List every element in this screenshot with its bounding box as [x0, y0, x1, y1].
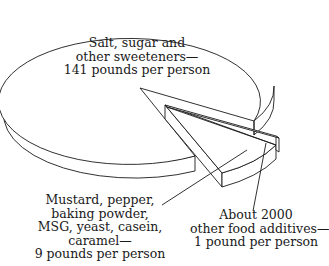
label-line: About 2000	[190, 208, 322, 222]
label-line: Salt, sugar and	[62, 36, 212, 50]
label-salt-sugar: Salt, sugar and other sweeteners— 141 po…	[62, 36, 212, 77]
label-line: MSG, yeast, casein,	[30, 220, 170, 234]
label-other-additives: About 2000 other food additives— 1 pound…	[190, 208, 322, 249]
label-line: other sweeteners—	[62, 50, 212, 64]
label-line: baking powder,	[30, 207, 170, 221]
label-line: 9 pounds per person	[30, 247, 170, 261]
label-line: other food additives—	[190, 222, 322, 236]
additives-slice-side	[276, 136, 279, 152]
label-line: Mustard, pepper,	[30, 193, 170, 207]
label-line: 1 pound per person	[190, 235, 322, 249]
label-mustard-etc: Mustard, pepper, baking powder, MSG, yea…	[30, 193, 170, 261]
label-line: 141 pounds per person	[62, 63, 212, 77]
label-line: caramel—	[30, 234, 170, 248]
